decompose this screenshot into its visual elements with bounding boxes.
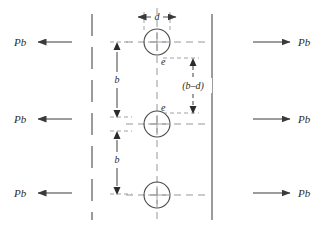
dimension-d: d: [138, 11, 176, 30]
dimension-b-lower-label: b: [115, 154, 120, 165]
arrow-b-upper-top: [114, 42, 121, 50]
diagram-canvas: d b b (b: [0, 0, 326, 232]
force-arrow-right-bottom: Pb: [253, 187, 311, 199]
edge-distance-lower: e: [161, 102, 166, 113]
force-arrow-left-bottom: Pb: [13, 187, 72, 199]
force-label-left-bottom: Pb: [13, 187, 27, 199]
edge-distance-upper: e: [161, 56, 166, 67]
arrow-bd-bottom: [190, 106, 197, 114]
force-label-right-middle: Pb: [297, 113, 311, 125]
dimension-b-upper-label: b: [115, 74, 120, 85]
dimension-b-upper: b: [107, 42, 132, 118]
force-arrow-right-top: Pb: [253, 36, 311, 48]
dimension-d-label: d: [155, 11, 161, 22]
dimension-b-minus-d-label: (b–d): [182, 80, 204, 92]
dimension-b-lower: b: [107, 131, 132, 195]
edge-distance-lower-label: e: [161, 102, 166, 113]
arrow-b-lower-top: [114, 131, 121, 139]
rivet-joint-diagram: d b b (b: [0, 0, 326, 232]
force-arrow-left-middle: Pb: [13, 113, 72, 125]
force-label-left-top: Pb: [13, 36, 27, 48]
arrow-bd-top: [190, 58, 197, 66]
dimension-b-minus-d: (b–d): [163, 58, 212, 114]
force-arrow-right-middle: Pb: [253, 113, 311, 125]
force-label-right-top: Pb: [297, 36, 311, 48]
edge-distance-upper-label: e: [161, 56, 166, 67]
force-label-left-middle: Pb: [13, 113, 27, 125]
force-arrow-left-top: Pb: [13, 36, 72, 48]
force-label-right-bottom: Pb: [297, 187, 311, 199]
